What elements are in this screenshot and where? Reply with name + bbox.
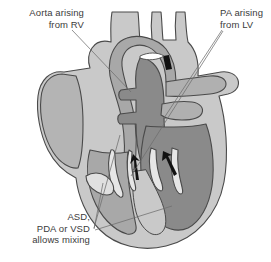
annotation-shunts: ASD, PDA or VSD allows mixing	[2, 211, 90, 246]
pulmonary-trunk	[161, 102, 203, 120]
annotation-pa-from-lv: PA arising from LV	[220, 7, 271, 30]
annotation-aorta-from-rv: Aorta arising from RV	[6, 7, 84, 30]
